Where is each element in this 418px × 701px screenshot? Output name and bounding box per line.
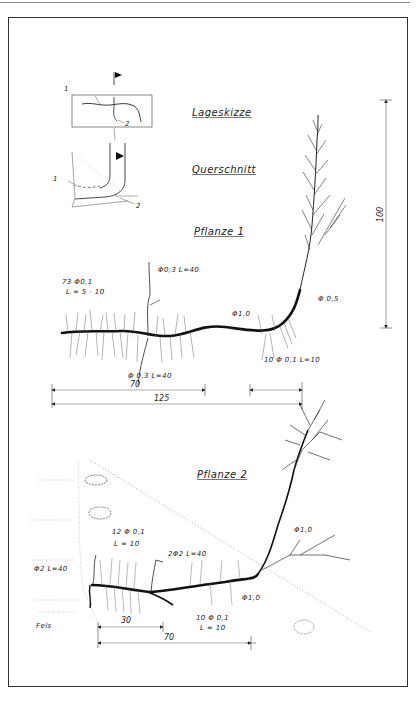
plant-1-lateral-roots-label: 73 Φ0,1 bbox=[62, 278, 93, 286]
cross-section-title: Querschnitt bbox=[192, 164, 256, 175]
rock-label: Fels bbox=[36, 622, 52, 630]
site-sketch-marker-2: 2 bbox=[125, 120, 130, 128]
plant-2-title: Pflanze 2 bbox=[197, 469, 247, 480]
plant-1-right-roots-label: 10 Φ 0,1 L=10 bbox=[264, 356, 320, 364]
plant-1-title: Pflanze 1 bbox=[194, 226, 244, 237]
plant-2-lateral-length-label: L = 10 bbox=[114, 540, 140, 548]
plant-1-drawing bbox=[52, 100, 392, 410]
cross-section-marker-2: 2 bbox=[136, 202, 141, 210]
site-sketch bbox=[72, 72, 152, 140]
plant-2-right-length-label: L = 10 bbox=[200, 624, 226, 632]
root-system-drawing bbox=[0, 0, 418, 701]
plant-1-span-long: 125 bbox=[154, 394, 169, 403]
flag-icon bbox=[115, 72, 122, 78]
plant-1-span-short: 70 bbox=[130, 380, 140, 389]
site-sketch-title: Lageskizze bbox=[192, 107, 252, 118]
plant-1-lateral-length-label: L = 5 - 10 bbox=[66, 288, 105, 296]
plant-2-left-branch-label: Φ2 L=40 bbox=[34, 565, 68, 573]
plant-2-branch-label: 2Φ2 L=40 bbox=[168, 550, 207, 558]
site-sketch-marker-1: 1 bbox=[64, 85, 69, 93]
plant-1-upper-branch-label: Φ0,3 L=40 bbox=[158, 266, 199, 274]
plant-1-height: 100 bbox=[376, 207, 385, 222]
plant-1-stem-label: Φ 0,5 bbox=[318, 295, 339, 303]
cross-section-marker-1: 1 bbox=[53, 175, 58, 183]
cross-section-sketch bbox=[68, 143, 138, 207]
plant-2-lateral-roots-label: 12 Φ 0,1 bbox=[112, 528, 145, 536]
plant-1-lower-branch-label: Φ 0,3 L=40 bbox=[128, 372, 172, 380]
plant-2-main-root-label: Φ1,0 bbox=[242, 594, 260, 602]
plant-2-right-roots-label: 10 Φ 0,1 bbox=[196, 614, 229, 622]
plant-2-span-long: 70 bbox=[164, 633, 174, 642]
plant-2-stem-label: Φ1,0 bbox=[294, 526, 312, 534]
flag-icon bbox=[116, 152, 124, 160]
plant-1-main-root-label: Φ1,0 bbox=[232, 310, 250, 318]
plant-2-span-short: 30 bbox=[121, 616, 131, 625]
plant-2-drawing bbox=[30, 400, 370, 650]
